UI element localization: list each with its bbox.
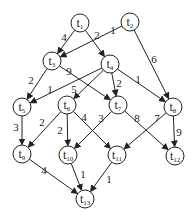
edge-weight-label: 3 — [13, 121, 19, 133]
edge-weight-label: 1 — [106, 173, 112, 185]
node-t3: t3 — [43, 52, 61, 70]
edge-t7-t10: 3 — [75, 111, 112, 148]
node-t11: t11 — [108, 146, 126, 164]
edge-t6-t9: 2 — [28, 112, 60, 147]
edge-t4-t7: 2 — [112, 73, 122, 96]
node-t4: t4 — [101, 55, 119, 73]
node-t1: t1 — [71, 14, 89, 32]
node-t7: t7 — [109, 96, 127, 114]
edge-t6-t10: 2 — [57, 114, 68, 146]
edge-weight-label: 1 — [80, 168, 86, 180]
edge-weight-label: 2 — [116, 77, 122, 89]
nodes-layer: t1t2t3t4t5t6t7t8t9t10t11t12t13 — [13, 13, 184, 208]
edge-t1-t3: 4 — [58, 30, 75, 53]
edge-t8-t12: 9 — [173, 116, 182, 147]
edge-weight-label: 1 — [47, 83, 53, 95]
node-t12: t12 — [166, 147, 184, 165]
edge-t11-t13: 1 — [91, 162, 112, 191]
edge-weight-label: 5 — [71, 83, 77, 95]
edge-weight-label: 1 — [135, 73, 141, 85]
edge-t3-t5: 2 — [27, 69, 47, 100]
edges-layer: 421629152132243879411 — [13, 24, 182, 193]
edge-arrow — [117, 69, 165, 102]
edge-t2-t3: 1 — [60, 24, 121, 57]
edge-weight-label: 1 — [110, 24, 116, 36]
edge-t6-t11: 4 — [73, 111, 110, 148]
edge-t2-t8: 6 — [134, 30, 169, 98]
edge-weight-label: 8 — [134, 112, 140, 124]
edge-t8-t11: 7 — [124, 112, 166, 149]
edge-weight-label: 9 — [176, 126, 182, 138]
edge-arrow — [67, 114, 68, 146]
edge-weight-label: 4 — [41, 164, 47, 176]
node-t2: t2 — [121, 13, 139, 31]
edge-t5-t9: 3 — [13, 116, 22, 145]
edge-weight-label: 2 — [57, 124, 63, 136]
edge-weight-label: 2 — [39, 116, 45, 128]
edge-weight-label: 2 — [28, 74, 34, 86]
edge-t10-t13: 1 — [71, 163, 86, 190]
edge-arrow — [173, 116, 174, 147]
edge-arrow — [124, 113, 166, 149]
node-t10: t10 — [59, 146, 77, 164]
edge-weight-label: 7 — [154, 112, 160, 124]
node-t6: t6 — [58, 96, 76, 114]
node-t13: t13 — [76, 190, 94, 208]
edge-weight-label: 9 — [66, 65, 72, 77]
graph-svg: 421629152132243879411 t1t2t3t4t5t6t7t8t9… — [0, 0, 193, 221]
edge-t3-t7: 9 — [59, 65, 110, 100]
edge-t4-t8: 1 — [117, 69, 165, 102]
edge-arrow — [75, 111, 112, 148]
edge-arrow — [29, 159, 77, 193]
node-t5: t5 — [13, 98, 31, 116]
node-t9: t9 — [13, 145, 31, 163]
task-graph-diagram: 421629152132243879411 t1t2t3t4t5t6t7t8t9… — [0, 0, 193, 221]
edge-arrow — [73, 111, 110, 148]
edge-weight-label: 4 — [81, 111, 87, 123]
edge-t9-t13: 4 — [29, 159, 77, 193]
edge-weight-label: 4 — [61, 31, 67, 43]
edge-weight-label: 3 — [98, 112, 104, 124]
edge-weight-label: 6 — [151, 53, 157, 65]
node-t8: t8 — [164, 98, 182, 116]
